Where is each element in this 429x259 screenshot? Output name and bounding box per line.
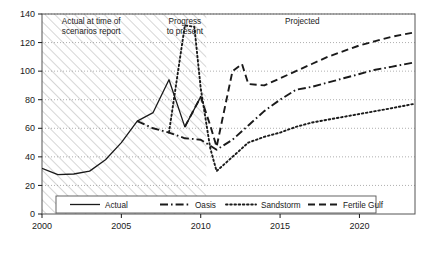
legend-label: Oasis [195, 201, 216, 210]
x-tick-label: 2000 [32, 221, 52, 231]
x-tick-label: 2015 [270, 221, 290, 231]
legend-label: Sandstorm [261, 201, 301, 210]
y-tick-label: 40 [25, 152, 35, 162]
actual-region-label: Actual at time ofscenarios report [62, 17, 121, 36]
svg-text:Progress: Progress [168, 17, 201, 26]
legend-label: Fertile Gulf [343, 201, 384, 210]
y-tick-label: 60 [25, 123, 35, 133]
x-tick-label: 2010 [191, 221, 211, 231]
y-tick-label: 20 [25, 181, 35, 191]
chart-legend: ActualOasisSandstormFertile Gulf [56, 196, 384, 213]
svg-text:Projected: Projected [285, 17, 320, 26]
y-tick-label: 140 [20, 9, 35, 19]
projected-region-label: Projected [285, 17, 320, 26]
x-tick-label: 2020 [349, 221, 369, 231]
legend-label: Actual [105, 201, 128, 210]
chart-figure: 020406080100120140 20002005201020152020 … [0, 0, 429, 259]
svg-text:scenarios report: scenarios report [62, 27, 121, 36]
progress-region-label: Progressto present [167, 17, 204, 36]
x-tick-label: 2005 [111, 221, 131, 231]
scenario-projection-line-chart: 020406080100120140 20002005201020152020 … [0, 0, 429, 259]
svg-text:Actual at time of: Actual at time of [62, 17, 121, 26]
svg-text:to present: to present [167, 27, 204, 36]
y-tick-label: 100 [20, 66, 35, 76]
y-tick-label: 0 [30, 209, 35, 219]
y-tick-label: 80 [25, 95, 35, 105]
y-tick-label: 120 [20, 38, 35, 48]
